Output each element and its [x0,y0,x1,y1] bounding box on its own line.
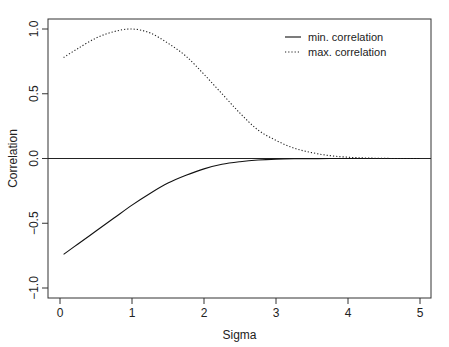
x-tick-label: 4 [345,306,352,320]
x-tick-label: 1 [129,306,136,320]
x-axis: 012345 [57,298,424,320]
y-axis-title: Correlation [6,129,20,188]
y-tick-label: 0.0 [27,150,41,167]
chart: 012345 −1.0−0.50.00.51.0 Sigma Correlati… [0,0,449,347]
legend-label-max: max. correlation [308,46,386,58]
x-tick-label: 5 [417,306,424,320]
y-tick-label: −1.0 [27,276,41,300]
y-axis: −1.0−0.50.00.51.0 [27,20,48,300]
y-tick-label: −0.5 [27,211,41,235]
y-tick-label: 1.0 [27,20,41,37]
y-tick-label: 0.5 [27,85,41,102]
x-axis-title: Sigma [222,328,256,342]
legend: min. correlation max. correlation [285,31,386,58]
x-tick-label: 0 [57,306,64,320]
legend-label-min: min. correlation [308,31,383,43]
x-tick-label: 2 [201,306,208,320]
x-tick-label: 3 [273,306,280,320]
min-correlation-line [64,158,420,254]
